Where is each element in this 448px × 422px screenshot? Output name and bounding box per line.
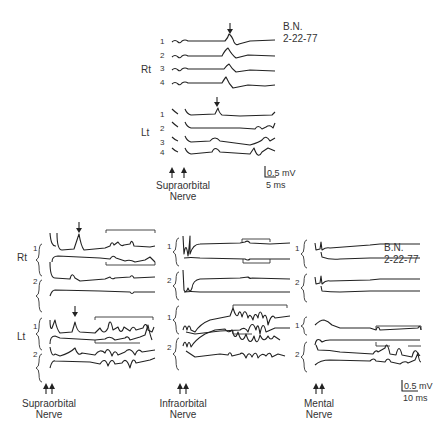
top-lt-traces (172, 97, 275, 155)
top-rt-trace-2: 2 (160, 51, 164, 60)
top-stimulus-arrows (169, 167, 187, 178)
supraorbital-label-line1: Supraorbital (14, 398, 84, 409)
infraorbital-stimulus-arrows (177, 383, 189, 394)
top-date-label: 2-22-77 (283, 33, 317, 44)
top-rt-trace-1: 1 (160, 37, 164, 46)
top-lt-trace-2: 2 (160, 124, 164, 133)
bottom-date-label: 2-22-77 (384, 254, 418, 265)
bottom-mental-lt-1: 1 (295, 321, 299, 330)
mental-stimulus-arrows (313, 383, 325, 394)
mental-label-line1: Mental (294, 398, 344, 409)
top-rt-trace-4: 4 (160, 78, 164, 87)
top-rt-traces (172, 23, 275, 88)
bottom-infra-lt-2: 2 (167, 343, 171, 352)
top-lt-trace-4: 4 (160, 148, 164, 157)
bottom-supra-lt-2: 2 (33, 350, 37, 359)
top-subject-label: B.N. (283, 21, 302, 32)
bottom-curly-brackets (36, 238, 307, 382)
bottom-infra-lt-1: 1 (167, 313, 171, 322)
bottom-mental-rt-2: 2 (295, 278, 299, 287)
bottom-lt-label: Lt (17, 331, 25, 342)
top-rt-label: Rt (141, 64, 151, 75)
bottom-mental-rt-1: 1 (295, 244, 299, 253)
bottom-scale-time: 10 ms (403, 393, 428, 403)
top-rt-trace-3: 3 (160, 64, 164, 73)
top-lt-label: Lt (141, 127, 149, 138)
bottom-infra-rt-2: 2 (167, 276, 171, 285)
bottom-infraorbital-lt-traces (183, 305, 290, 358)
top-scale-time: 5 ms (266, 180, 286, 190)
bottom-supra-rt-2: 2 (33, 277, 37, 286)
bottom-mental-traces (315, 242, 420, 292)
bottom-supraorbital-traces (50, 222, 155, 296)
top-stimulus-label-line2: Nerve (148, 191, 218, 202)
top-lt-trace-3: 3 (160, 138, 164, 147)
infraorbital-label-line1: Infraorbital (148, 398, 218, 409)
bottom-infraorbital-traces (183, 236, 290, 292)
bottom-scale-amplitude: 0.5 mV (404, 381, 433, 391)
bottom-infra-rt-1: 1 (167, 242, 171, 251)
bottom-supra-rt-1: 1 (33, 244, 37, 253)
supraorbital-label-line2: Nerve (14, 409, 84, 420)
bottom-mental-lt-traces (315, 320, 421, 365)
bottom-mental-lt-2: 2 (295, 350, 299, 359)
top-stimulus-label-line1: Supraorbital (148, 180, 218, 191)
bottom-rt-label: Rt (17, 252, 27, 263)
top-lt-trace-1: 1 (160, 110, 164, 119)
top-scale-amplitude: 0.5 mV (267, 168, 296, 178)
bottom-supra-lt-1: 1 (33, 322, 37, 331)
supraorbital-stimulus-arrows (43, 383, 55, 394)
infraorbital-label-line2: Nerve (148, 409, 218, 420)
bottom-supraorbital-lt-traces (50, 306, 155, 368)
mental-label-line2: Nerve (294, 409, 344, 420)
bottom-subject-label: B.N. (384, 242, 403, 253)
figure-traces (0, 0, 448, 422)
